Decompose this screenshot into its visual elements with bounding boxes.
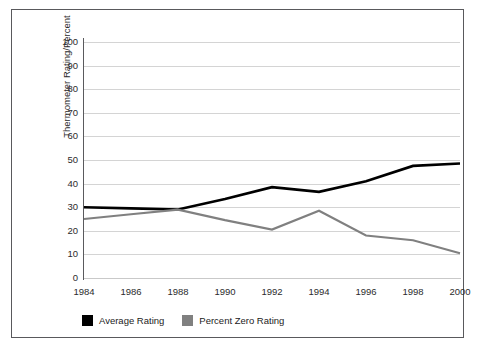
- legend-label: Average Rating: [99, 315, 164, 326]
- y-axis-tick-label: 50: [48, 155, 78, 165]
- black-square-swatch: [82, 315, 93, 326]
- x-axis-tick-label: 1990: [202, 286, 248, 297]
- x-axis-tick-label: 1996: [343, 286, 389, 297]
- x-axis-tick-label: 1994: [296, 286, 342, 297]
- x-axis-tick-label: 1992: [249, 286, 295, 297]
- series-line-percent-zero-rating: [84, 210, 460, 254]
- y-axis-tick-label: 40: [48, 179, 78, 189]
- plot-area: [84, 42, 460, 278]
- series-line-average-rating: [84, 164, 460, 210]
- x-axis-tick-label: 1998: [390, 286, 436, 297]
- legend-item: Percent Zero Rating: [182, 315, 284, 326]
- chart-frame-border: Thermometer Rating/Percent 1009080706050…: [11, 9, 464, 338]
- x-axis-tick-label: 1986: [108, 286, 154, 297]
- x-axis-line: [84, 278, 461, 279]
- x-axis-tick-label: 1984: [61, 286, 107, 297]
- legend-item: Average Rating: [82, 315, 164, 326]
- x-axis-tick-label: 2000: [437, 286, 483, 297]
- y-axis-tick-label: 90: [48, 61, 78, 71]
- y-axis-tick-labels: 1009080706050403020100: [44, 10, 78, 354]
- y-axis-tick-label: 80: [48, 84, 78, 94]
- chart-figure: Thermometer Rating/Percent 1009080706050…: [0, 0, 483, 354]
- y-axis-tick-label: 10: [48, 249, 78, 259]
- y-axis-tick-label: 100: [48, 37, 78, 47]
- data-series-layer: [84, 42, 460, 278]
- y-axis-tick-label: 20: [48, 226, 78, 236]
- x-axis-tick-label: 1988: [155, 286, 201, 297]
- y-axis-tick-label: 30: [48, 202, 78, 212]
- y-axis-tick-label: 70: [48, 108, 78, 118]
- legend-label: Percent Zero Rating: [199, 315, 284, 326]
- gray-square-swatch: [182, 315, 193, 326]
- chart-legend: Average RatingPercent Zero Rating: [82, 315, 284, 326]
- y-axis-tick-label: 0: [48, 273, 78, 283]
- y-axis-tick-label: 60: [48, 131, 78, 141]
